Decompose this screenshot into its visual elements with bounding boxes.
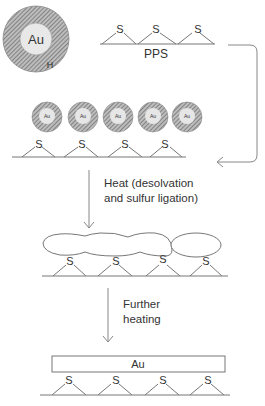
sulfur-label: S: [121, 138, 128, 150]
step1-line1: Heat (desolvation: [104, 176, 198, 191]
step2-caption: Further heating: [123, 297, 161, 327]
step1-line2: and sulfur ligation): [104, 191, 198, 206]
curved-arrow: [217, 45, 257, 167]
step2-arrow: [103, 288, 113, 342]
sulfur-label: S: [112, 255, 119, 267]
step1-arrow: [84, 170, 94, 228]
sulfur-label: S: [159, 253, 166, 265]
particle-core-label: Au: [80, 113, 86, 119]
particle-core-label: Au: [150, 113, 156, 119]
sulfur-label: S: [78, 138, 85, 150]
particle-core-label: Au: [115, 113, 121, 119]
gold-nanoparticle: Au H: [3, 6, 69, 72]
step2-line1: Further: [123, 297, 161, 312]
sulfur-label: S: [35, 138, 42, 150]
sulfur-label: S: [161, 138, 168, 150]
particle-core-label: Au: [184, 113, 190, 119]
sulfur-label: S: [159, 374, 166, 386]
shell-label: H: [47, 60, 54, 70]
sulfur-label: S: [202, 255, 209, 267]
stage2-fused-particles: [43, 233, 221, 257]
pps-label: PPS: [144, 47, 168, 61]
core-label: Au: [28, 32, 44, 47]
sulfur-label: S: [204, 374, 211, 386]
sulfur-label: S: [112, 374, 119, 386]
sulfur-label: S: [152, 23, 159, 35]
step1-caption: Heat (desolvation and sulfur ligation): [104, 176, 198, 206]
sulfur-label: S: [66, 255, 73, 267]
sulfur-label: S: [194, 23, 201, 35]
step2-line2: heating: [123, 312, 161, 327]
particle-core-label: Au: [44, 113, 50, 119]
sulfur-label: S: [116, 23, 123, 35]
film-label: Au: [131, 358, 144, 370]
sulfur-label: S: [65, 374, 72, 386]
